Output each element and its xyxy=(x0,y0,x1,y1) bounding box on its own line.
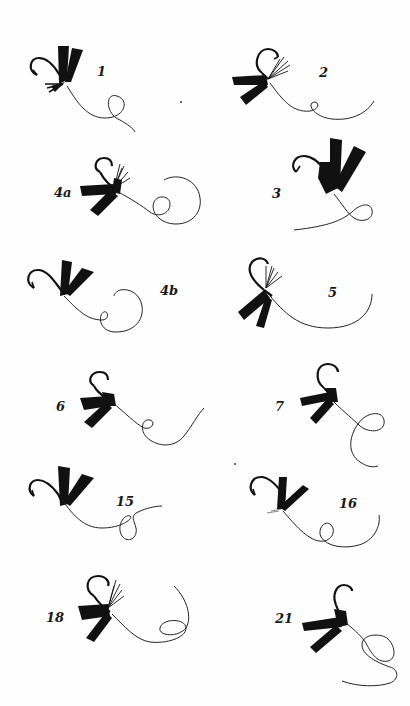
fly-figure-16 xyxy=(245,475,385,555)
fly-figure-15 xyxy=(26,466,166,556)
fly-figure-4a xyxy=(78,158,208,228)
figure-label-3: 3 xyxy=(272,187,281,200)
fly-figure-3 xyxy=(290,138,380,233)
fly-illustration-plate: 1 2 4a xyxy=(0,0,410,706)
figure-label-7: 7 xyxy=(275,400,284,413)
fly-hook-icon xyxy=(24,258,154,338)
fly-hook-icon xyxy=(290,138,380,233)
scan-speck xyxy=(180,101,182,103)
figure-label-4a: 4a xyxy=(54,186,71,199)
fly-hook-icon xyxy=(80,372,210,452)
fly-figure-6 xyxy=(80,372,210,452)
fly-figure-18 xyxy=(78,576,198,656)
fly-figure-7 xyxy=(300,362,390,472)
fly-figure-2 xyxy=(232,45,382,135)
figure-label-18: 18 xyxy=(46,611,64,624)
fly-hook-icon xyxy=(232,45,382,135)
figure-label-15: 15 xyxy=(116,495,134,508)
fly-figure-4b xyxy=(24,258,154,338)
figure-label-5: 5 xyxy=(328,286,337,299)
figure-label-4b: 4b xyxy=(160,284,178,297)
figure-label-21: 21 xyxy=(275,612,293,625)
fly-hook-icon xyxy=(25,40,135,135)
scan-speck xyxy=(234,463,236,465)
fly-hook-icon xyxy=(26,466,166,556)
fly-hook-icon xyxy=(300,362,390,472)
fly-hook-icon xyxy=(245,475,385,555)
fly-figure-1 xyxy=(25,40,135,135)
figure-label-16: 16 xyxy=(339,497,357,510)
fly-hook-icon xyxy=(238,256,378,336)
fly-figure-21 xyxy=(302,583,402,683)
figure-label-6: 6 xyxy=(56,400,65,413)
fly-hook-icon xyxy=(302,583,402,683)
figure-label-1: 1 xyxy=(97,65,106,78)
figure-label-2: 2 xyxy=(319,66,328,79)
fly-hook-icon xyxy=(78,158,208,228)
fly-figure-5 xyxy=(238,256,378,336)
fly-hook-icon xyxy=(78,576,198,656)
